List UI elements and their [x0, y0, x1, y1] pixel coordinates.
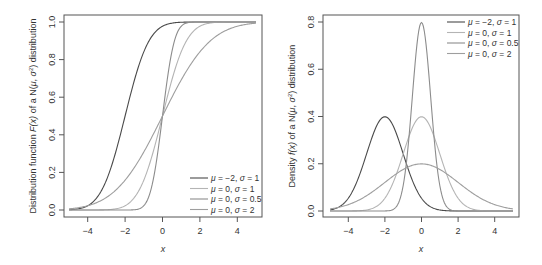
normal-distribution-figure: −4−20240.00.20.40.60.81.0xDistribution f…: [0, 0, 542, 265]
legend: μ = −2, σ = 1μ = 0, σ = 1μ = 0, σ = 0.5μ…: [447, 17, 519, 59]
x-tick-label: −2: [380, 226, 390, 236]
legend-entry: μ = −2, σ = 1: [467, 17, 517, 27]
legend-entry: μ = 0, σ = 1: [210, 184, 255, 194]
x-tick-label: 4: [492, 226, 497, 236]
y-tick-label: 0.8: [306, 16, 316, 29]
legend-entry: μ = 0, σ = 2: [210, 205, 255, 215]
legend: μ = −2, σ = 1μ = 0, σ = 1μ = 0, σ = 0.5μ…: [190, 173, 262, 215]
x-tick-label: −2: [120, 226, 130, 236]
legend-entry: μ = 0, σ = 1: [467, 28, 512, 38]
x-tick-label: 4: [235, 226, 240, 236]
x-axis-label: x: [160, 244, 166, 254]
legend-entry: μ = 0, σ = 0.5: [467, 38, 519, 48]
y-tick-label: 0.0: [47, 204, 57, 217]
y-tick-label: 0.4: [306, 110, 316, 123]
y-axis-label: Distribution function F(x) of a N(μ, σ2)…: [28, 19, 38, 214]
legend-entry: μ = 0, σ = 2: [467, 49, 512, 59]
y-tick-label: 0.8: [47, 53, 57, 66]
left-plot: −4−20240.00.20.40.60.81.0xDistribution f…: [28, 15, 262, 254]
x-tick-label: 0: [160, 226, 165, 236]
x-tick-label: −4: [343, 226, 353, 236]
right-plot: −4−20240.00.20.40.60.8xDensity f(x) of a…: [287, 15, 519, 254]
x-axis-label: x: [418, 244, 424, 254]
legend-entry: μ = −2, σ = 1: [210, 173, 260, 183]
y-tick-label: 0.2: [47, 166, 57, 179]
y-tick-label: 0.6: [47, 91, 57, 104]
y-tick-label: 1.0: [47, 16, 57, 29]
x-tick-label: −4: [83, 226, 93, 236]
x-axis: −4−2024: [83, 217, 240, 236]
x-axis: −4−2024: [343, 217, 497, 236]
legend-entry: μ = 0, σ = 0.5: [210, 194, 262, 204]
x-tick-label: 2: [456, 226, 461, 236]
series-line-3: [330, 164, 513, 209]
y-axis-label: Density f(x) of a N(μ, σ2) distribution: [287, 45, 297, 188]
y-axis: 0.00.20.40.60.81.0: [47, 16, 64, 217]
y-tick-label: 0.2: [306, 157, 316, 170]
y-axis: 0.00.20.40.60.8: [306, 16, 323, 218]
y-tick-label: 0.6: [306, 63, 316, 76]
y-tick-label: 0.4: [47, 129, 57, 142]
x-tick-label: 2: [197, 226, 202, 236]
y-tick-label: 0.0: [306, 205, 316, 218]
x-tick-label: 0: [419, 226, 424, 236]
